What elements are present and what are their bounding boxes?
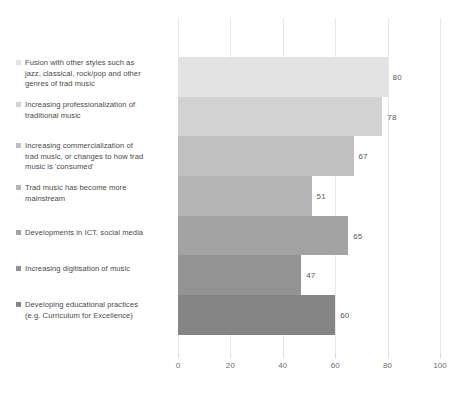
bar[interactable] <box>178 97 382 137</box>
legend-item: Trad music has become more mainstream <box>16 183 172 204</box>
bar[interactable] <box>178 57 388 97</box>
bar-row: 60 <box>178 295 440 335</box>
x-axis: 020406080100 <box>178 353 440 377</box>
x-tick-label: 100 <box>433 361 447 370</box>
bar-value-label: 51 <box>317 191 326 200</box>
bar-row: 67 <box>178 136 440 176</box>
bar-row: 47 <box>178 255 440 295</box>
legend-item: Increasing digitisation of music <box>16 264 172 275</box>
legend-swatch-icon <box>16 185 21 190</box>
bar[interactable] <box>178 176 312 216</box>
bar[interactable] <box>178 295 335 335</box>
bar-value-label: 60 <box>340 310 349 319</box>
legend-item-label: Developing educational practices (e.g. C… <box>25 300 172 321</box>
legend-item-label: Increasing commercialization of trad mus… <box>25 141 172 173</box>
bar[interactable] <box>178 255 301 295</box>
x-tick-mark <box>178 353 179 358</box>
legend-item-label: Increasing digitisation of music <box>25 264 172 275</box>
x-tick-label: 20 <box>226 361 235 370</box>
gridline <box>440 18 441 353</box>
legend-item-label: Trad music has become more mainstream <box>25 183 172 204</box>
bar-row: 65 <box>178 216 440 256</box>
legend-item: Increasing professionalization of tradit… <box>16 100 172 121</box>
x-tick-mark <box>388 353 389 358</box>
x-tick-label: 40 <box>278 361 287 370</box>
bar-row: 51 <box>178 176 440 216</box>
legend-swatch-icon <box>16 230 21 235</box>
bar-series: 80786751654760 <box>178 57 440 335</box>
x-tick-mark <box>440 353 441 358</box>
bar[interactable] <box>178 136 354 176</box>
legend-swatch-icon <box>16 302 21 307</box>
bar-row: 78 <box>178 97 440 137</box>
legend-swatch-icon <box>16 102 21 107</box>
bar-value-label: 80 <box>393 72 402 81</box>
x-tick-label: 60 <box>331 361 340 370</box>
bar-row: 80 <box>178 57 440 97</box>
legend-item-label: Increasing professionalization of tradit… <box>25 100 172 121</box>
x-tick-mark <box>335 353 336 358</box>
legend-item: Increasing commercialization of trad mus… <box>16 141 172 173</box>
bar-value-label: 65 <box>353 231 362 240</box>
legend-item: Developing educational practices (e.g. C… <box>16 300 172 321</box>
x-tick-mark <box>230 353 231 358</box>
bar-chart-figure: Fusion with other styles such as jazz, c… <box>0 0 459 402</box>
chart-legend: Fusion with other styles such as jazz, c… <box>0 0 172 402</box>
legend-swatch-icon <box>16 60 21 65</box>
legend-swatch-icon <box>16 143 21 148</box>
bar[interactable] <box>178 216 348 256</box>
x-tick-mark <box>283 353 284 358</box>
x-tick-label: 80 <box>383 361 392 370</box>
legend-item: Developments in ICT, social media <box>16 228 172 239</box>
legend-item-label: Developments in ICT, social media <box>25 228 172 239</box>
plot-area: 80786751654760 <box>178 18 440 353</box>
legend-item: Fusion with other styles such as jazz, c… <box>16 58 172 90</box>
legend-item-label: Fusion with other styles such as jazz, c… <box>25 58 172 90</box>
bar-value-label: 67 <box>359 152 368 161</box>
legend-swatch-icon <box>16 266 21 271</box>
x-tick-label: 0 <box>176 361 181 370</box>
bar-value-label: 47 <box>306 271 315 280</box>
bar-value-label: 78 <box>387 112 396 121</box>
